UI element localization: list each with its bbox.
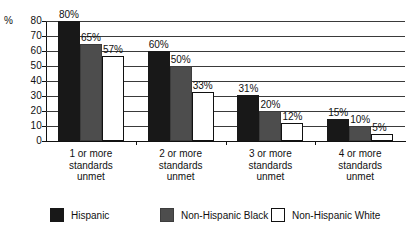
bar-value-label: 20% [260,100,280,110]
bar-value-label: 10% [350,115,370,125]
y-axis-tick-label-wrap: 10 [14,121,42,131]
legend-swatch [160,208,174,222]
x-axis-category-label: 3 or morestandardsunmet [225,148,315,183]
legend-swatch [50,208,64,222]
y-axis-tick-label-wrap: 20 [14,106,42,116]
x-axis-category-label-line: standards [315,160,405,172]
x-axis-tick-mark [226,141,227,145]
x-axis-category-label-line: 2 or more [136,148,226,160]
bar-value-label: 60% [149,40,169,50]
bar [102,56,124,142]
x-axis-category-label-line: standards [225,160,315,172]
x-axis-category-label-line: standards [136,160,226,172]
x-axis-category-label-line: 1 or more [46,148,136,160]
x-axis-category-label: 1 or morestandardsunmet [46,148,136,183]
y-axis-tick-label: 20 [18,106,42,116]
x-axis-category-label-line: unmet [46,171,136,183]
legend-item: Non-Hispanic White [271,208,380,222]
legend-item: Non-Hispanic Black [160,208,268,222]
bar [237,95,259,142]
y-axis-tick-label: 30 [18,91,42,101]
bar [80,44,102,142]
legend-item: Hispanic [50,208,109,222]
legend-label: Non-Hispanic White [292,210,380,221]
legend-label: Hispanic [71,210,109,221]
bar-value-label: 5% [372,123,386,133]
x-axis-category-label-line: unmet [136,171,226,183]
bar-value-label: 50% [171,55,191,65]
bar-value-label: 65% [81,33,101,43]
plot-area: 80%65%57%60%50%33%31%20%12%15%10%5% [46,21,405,141]
y-axis-tick-label: 80 [18,16,42,26]
bar-value-label: 33% [193,81,213,91]
y-axis-tick-label-wrap: 80 [14,16,42,26]
bar [281,123,303,141]
y-axis-tick-label: 70 [18,31,42,41]
bar [170,66,192,141]
bar [327,119,349,142]
x-axis-tick-mark [315,141,316,145]
y-axis-tick-label: 60 [18,46,42,56]
gridline [46,21,405,22]
bar-value-label: 12% [282,112,302,122]
y-axis-tick-label: 40 [18,76,42,86]
y-axis-tick-label: 10 [18,121,42,131]
bar [192,92,214,142]
y-axis-tick-label-wrap: 40 [14,76,42,86]
x-axis-category-label-line: standards [46,160,136,172]
bar [58,21,80,141]
bar [148,51,170,141]
y-axis-tick-label: 50 [18,61,42,71]
x-axis-category-label-line: 4 or more [315,148,405,160]
legend-swatch [271,208,285,222]
x-axis-category-label: 4 or morestandardsunmet [315,148,405,183]
bar-value-label: 80% [59,10,79,20]
bar-value-label: 57% [103,45,123,55]
y-axis-tick-label-wrap: 70 [14,31,42,41]
bar [371,134,393,142]
bar-value-label: 31% [238,84,258,94]
x-axis-category-label: 2 or morestandardsunmet [136,148,226,183]
x-axis-category-label-line: unmet [315,171,405,183]
x-axis-category-label-line: 3 or more [225,148,315,160]
y-axis-tick-label-wrap: 30 [14,91,42,101]
x-axis-tick-mark [136,141,137,145]
y-axis-tick-label-wrap: 50 [14,61,42,71]
y-axis-tick-label-wrap: 60 [14,46,42,56]
y-axis-tick-label-wrap: 0 [14,136,42,146]
legend-label: Non-Hispanic Black [181,210,268,221]
bar-value-label: 15% [328,108,348,118]
bar [259,111,281,141]
bar-chart: % 01020304050607080 80%65%57%60%50%33%31… [0,0,420,241]
y-axis-tick-label: 0 [18,136,42,146]
y-axis-unit-label: % [4,16,13,26]
bar [349,126,371,141]
x-axis-category-label-line: unmet [225,171,315,183]
